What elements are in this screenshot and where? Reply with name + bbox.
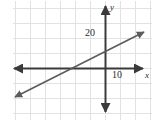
plot-canvas xyxy=(0,0,152,122)
y-axis-label: y xyxy=(110,3,114,12)
coordinate-plane-figure: y x 20 10 xyxy=(0,0,152,122)
x-axis-label: x xyxy=(145,71,149,80)
xtick-label-10: 10 xyxy=(112,70,122,80)
ytick-label-20: 20 xyxy=(85,28,95,38)
